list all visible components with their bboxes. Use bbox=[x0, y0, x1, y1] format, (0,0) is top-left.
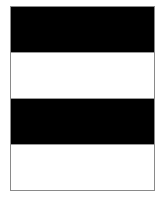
striped-panel bbox=[10, 6, 155, 191]
band-1-black bbox=[11, 7, 154, 52]
band-3-black bbox=[11, 98, 154, 144]
band-2-white bbox=[11, 52, 154, 98]
band-4-white bbox=[11, 144, 154, 190]
